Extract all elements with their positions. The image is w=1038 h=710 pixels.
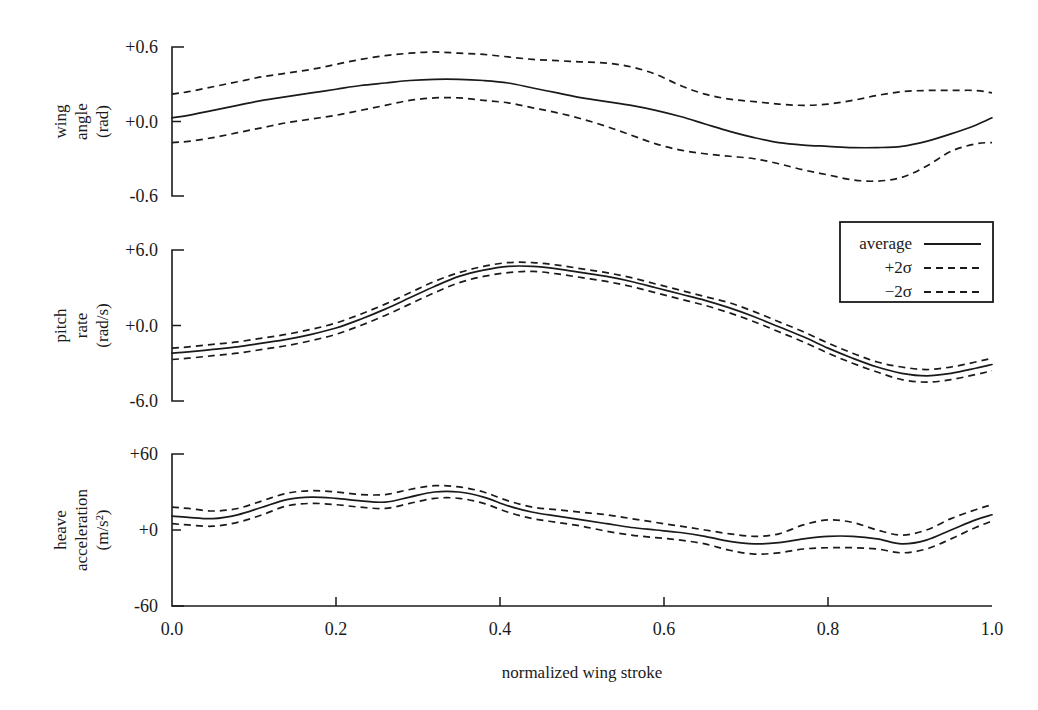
y-axis-title-line: rate [72,313,91,338]
y-axis-title-line: (m/s²) [93,510,112,551]
legend-label-plus2sigma: +2σ [885,258,912,277]
y-axis-title-line: pitch [51,308,70,342]
y-tick-label-heave-acceleration-min: -60 [134,596,158,616]
x-tick-label: 0.6 [653,619,676,639]
y-axis-title-pitch-rate: pitchrate(rad/s) [51,303,112,347]
x-axis: 0.00.20.40.60.81.0 normalized wing strok… [161,597,1004,682]
y-axis-title-line: (rad/s) [93,303,112,347]
legend-label-average: average [859,234,912,253]
figure-root: +0.6 +0.0 -0.6 wingangle(rad) +6.0 +0.0 … [0,0,1038,710]
legend[interactable]: average+2σ−2σ [840,222,993,302]
panel-wing-angle: +0.6 +0.0 -0.6 wingangle(rad) [51,37,992,206]
x-axis-ticks [336,597,828,606]
x-tick-label: 1.0 [981,619,1004,639]
y-tick-label-wing-angle-zero: +0.0 [125,112,158,132]
y-axis-title-wing-angle: wingangle(rad) [51,103,112,140]
y-axis-title-line: acceleration [72,488,91,571]
legend-label-minus2sigma: −2σ [885,282,912,301]
curve-heave-acceleration-minus2sigma [172,498,992,554]
y-axis-title-line: wing [51,104,70,139]
y-tick-label-pitch-rate-max: +6.0 [125,240,158,260]
y-tick-label-heave-acceleration-max: +60 [130,444,158,464]
multi-panel-line-chart: +0.6 +0.0 -0.6 wingangle(rad) +6.0 +0.0 … [0,0,1038,710]
curve-wing-angle-average [172,79,992,148]
x-tick-label: 0.2 [325,619,348,639]
y-tick-label-wing-angle-min: -0.6 [130,186,159,206]
x-tick-label: 0.0 [161,619,184,639]
x-tick-label: 0.8 [817,619,840,639]
x-axis-tick-labels: 0.00.20.40.60.81.0 [161,619,1004,639]
y-axis-title-line: angle [72,103,91,140]
curve-heave-acceleration-average [172,491,992,544]
x-tick-label: 0.4 [489,619,512,639]
y-axis-title-line: heave [51,510,70,550]
y-tick-label-heave-acceleration-zero: +0 [139,520,158,540]
y-tick-label-pitch-rate-zero: +0.0 [125,316,158,336]
panel-heave-acceleration: +60 +0 -60 heaveacceleration(m/s²) [51,444,992,616]
y-axis-title-line: (rad) [93,105,112,138]
y-tick-label-wing-angle-max: +0.6 [125,37,158,57]
y-tick-label-pitch-rate-min: -6.0 [130,391,159,411]
curve-heave-acceleration-plus2sigma [172,486,992,537]
x-axis-title: normalized wing stroke [502,663,663,682]
curve-wing-angle-minus2sigma [172,98,992,182]
y-axis-title-heave-acceleration: heaveacceleration(m/s²) [51,488,112,571]
